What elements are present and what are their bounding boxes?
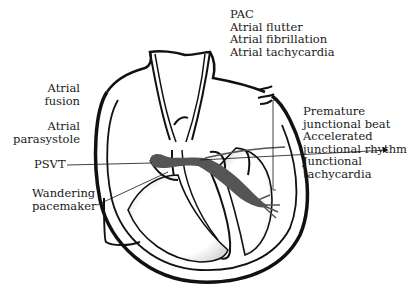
label-accelerated: Accelerated [303,130,407,143]
pulmonary-veins [258,86,274,104]
label-pac: PAC [230,8,335,21]
atrial-group-labels: PAC Atrial flutter Atrial fibrillation A… [230,8,335,58]
label-atrial-tachycardia: Atrial tachycardia [230,46,335,59]
label-atrial-parasystole-line2: parasystole [10,133,80,146]
label-junctional: Junctional [303,155,407,168]
label-premature: Premature [303,105,407,118]
label-tachycardia: tachycardia [303,168,407,181]
label-atrial-fusion-line2: fusion [30,95,80,108]
label-wandering-line1: Wandering [32,187,97,200]
junctional-group-labels: Premature junctional beat Accelerated ju… [303,105,407,180]
label-wandering-line2: pacemaker [32,200,97,213]
label-atrial-fibrillation: Atrial fibrillation [230,33,335,46]
psvt-leader-line [67,163,152,165]
label-atrial-parasystole-line1: Atrial [10,120,80,133]
label-psvt: PSVT [34,158,66,171]
label-atrial-fusion-line1: Atrial [30,82,80,95]
label-atrial-parasystole: Atrial parasystole [10,120,80,145]
label-wandering-pacemaker: Wandering pacemaker [32,187,97,212]
label-atrial-fusion: Atrial fusion [30,82,80,107]
junctional-bracket [273,100,276,190]
